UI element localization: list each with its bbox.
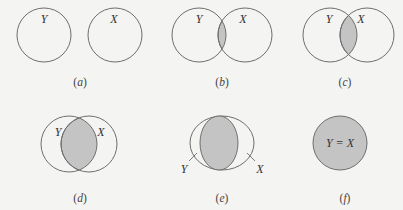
label-y: Y [326,12,334,26]
panel-e: Y X (e) [181,116,265,205]
caption-d: (d) [73,192,87,205]
caption-b: (b) [215,76,229,89]
intersection-region [200,116,238,170]
caption-c: (c) [339,76,352,89]
label-x: X [356,12,365,26]
label-x: X [255,162,264,176]
label-y: Y [41,12,49,26]
label-y: Y [181,162,189,176]
caption-a: (a) [73,76,87,89]
panel-f: Y = X (f) [313,116,367,205]
panel-b: Y X (b) [172,8,272,89]
panel-a: Y X (a) [17,8,142,89]
panel-d: Y X (d) [41,116,117,205]
label-x: X [238,12,247,26]
label-x: X [109,12,118,26]
label-y: Y [196,12,204,26]
caption-f: (f) [340,192,351,205]
venn-diagram-figure: Y X (a) Y X (b) Y X (c) Y X (d) Y X (e) [0,0,403,210]
panel-c: Y X (c) [303,8,394,89]
label-y-equals-x: Y = X [326,136,355,150]
label-x: X [96,125,105,139]
caption-e: (e) [216,192,229,205]
